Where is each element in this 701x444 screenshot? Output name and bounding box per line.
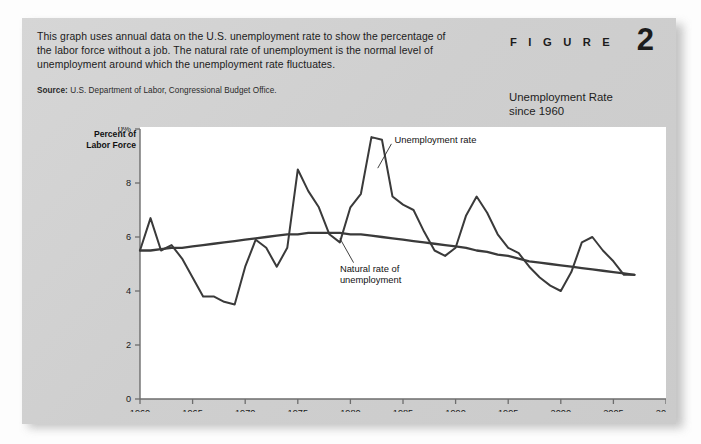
unemployment-rate-annotation: Unemployment rate	[395, 134, 477, 145]
x-tick-label: 1960	[130, 408, 150, 412]
y-tick-label: 10%	[118, 127, 131, 134]
natural-rate-annotation-line2: unemployment	[340, 274, 402, 285]
figure-title-line1: Unemployment Rate	[509, 90, 684, 104]
x-tick-label: 2010	[656, 408, 666, 412]
y-tick-label: 2	[126, 340, 131, 350]
x-tick-label: 1975	[288, 408, 308, 412]
figure-title-line2: since 1960	[509, 104, 684, 118]
x-tick-label: 1970	[235, 408, 255, 412]
x-tick-label: 1965	[182, 408, 202, 412]
x-tick-label: 1990	[445, 408, 465, 412]
x-tick-label: 1985	[393, 408, 413, 412]
x-tick-label: 1980	[340, 408, 360, 412]
x-tick-label: 2005	[603, 408, 623, 412]
unemployment-line-chart: 0246810%19601965197019751980198519901995…	[118, 127, 666, 412]
figure-title: Unemployment Rate since 1960	[509, 90, 684, 118]
source-text: U.S. Department of Labor, Congressional …	[70, 86, 276, 95]
chart-area: Percent of Labor Force 0246810%196019651…	[118, 127, 666, 412]
x-tick-label: 2000	[551, 408, 571, 412]
unemployment-rate-leader-line	[378, 144, 392, 168]
figure-page: This graph uses annual data on the U.S. …	[0, 0, 701, 444]
y-tick-label: 8	[126, 178, 131, 188]
figure-panel: This graph uses annual data on the U.S. …	[22, 18, 676, 424]
natural-rate-leader-line	[340, 238, 354, 262]
y-tick-label: 4	[126, 286, 131, 296]
natural-rate-annotation-line1: Natural rate of	[340, 263, 400, 274]
y-tick-label: 0	[126, 394, 131, 404]
figure-caption: This graph uses annual data on the U.S. …	[37, 30, 457, 73]
x-tick-label: 1995	[498, 408, 518, 412]
figure-source: Source: U.S. Department of Labor, Congre…	[37, 86, 457, 95]
figure-word: F I G U R E	[510, 36, 614, 48]
figure-number: 2	[637, 24, 654, 55]
y-tick-label: 6	[126, 232, 131, 242]
source-label: Source:	[37, 86, 68, 95]
